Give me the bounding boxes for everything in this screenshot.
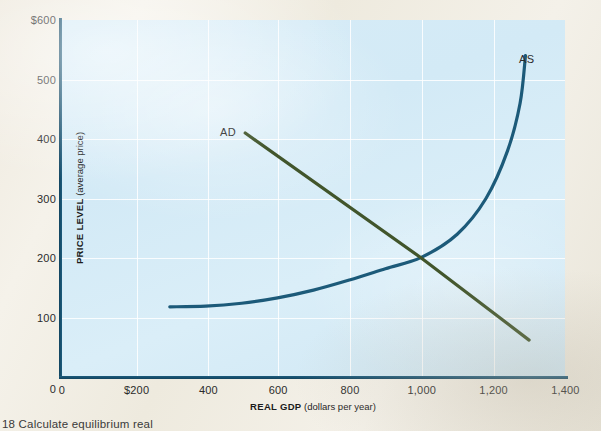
ad-as-chart: $600 500 400 300 200 100 0 0 $200 400 60… (0, 0, 601, 431)
aggregate-supply-label: AS (519, 53, 534, 65)
figure-caption: 18 Calculate equilibrium real (2, 418, 153, 431)
curve-layer (0, 0, 601, 431)
aggregate-demand-curve (245, 133, 529, 340)
aggregate-supply-curve (170, 56, 526, 307)
aggregate-demand-label: AD (220, 126, 236, 138)
